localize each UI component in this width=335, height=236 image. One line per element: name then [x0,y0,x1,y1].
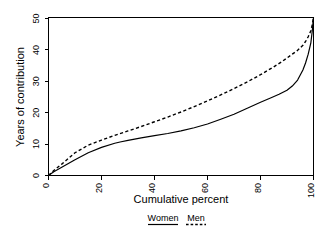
legend-label-men: Men [187,213,205,223]
x-tick-label: 0 [41,183,51,188]
x-tick-label: 40 [147,183,157,193]
x-tick-label: 60 [200,183,210,193]
x-tick-label: 100 [306,183,316,198]
chart-figure: 0 10 20 30 40 50 0 20 40 60 80 100 Years… [0,0,335,236]
series-line-women [49,18,314,176]
y-axis-tick-labels: 0 10 20 30 40 50 [31,13,41,178]
y-tick-label: 50 [31,13,41,23]
y-tick-label: 40 [31,45,41,55]
x-tick-label: 20 [94,183,104,193]
chart-canvas: 0 10 20 30 40 50 0 20 40 60 80 100 Years… [0,0,335,236]
chart-legend: Women Men [148,213,206,225]
x-tick-label: 80 [253,183,263,193]
y-tick-label: 0 [31,173,41,178]
x-axis-title: Cumulative percent [134,193,229,205]
y-tick-label: 20 [31,108,41,118]
y-axis-title: Years of contribution [14,47,26,147]
legend-label-women: Women [148,213,179,223]
y-tick-label: 10 [31,139,41,149]
y-tick-label: 30 [31,76,41,86]
